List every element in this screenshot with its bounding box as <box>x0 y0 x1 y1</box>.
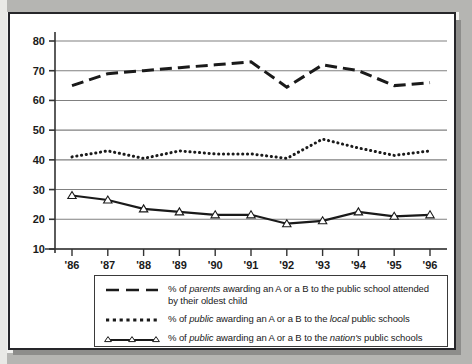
x-axis <box>45 249 447 256</box>
series-line-1 <box>72 139 430 158</box>
legend-local-b: awarding an A or a B to the <box>213 313 329 324</box>
x-tick-label: '95 <box>387 259 402 271</box>
legend-local-em2: local <box>330 313 349 324</box>
panel-shadow-bottom <box>13 350 461 355</box>
chart-legend: % of parents awarding an A or a B to the… <box>94 275 448 347</box>
legend-item-local: % of public awarding an A or a B to the … <box>95 307 447 327</box>
x-tick-label: '87 <box>100 259 115 271</box>
legend-nation-c: public schools <box>362 332 423 343</box>
y-tick-label: 30 <box>33 184 45 196</box>
y-tick-label: 10 <box>33 243 45 255</box>
legend-local-em1: public <box>189 313 213 324</box>
legend-parents-line2: by their oldest child <box>168 295 247 306</box>
x-tick-labels: '86'87'88'89'90'91'92'93'94'95'96 <box>65 259 438 271</box>
data-series-group <box>68 62 434 227</box>
y-tick-label: 50 <box>33 124 45 136</box>
panel-shadow-right <box>456 20 461 354</box>
triangle-line-sample <box>104 332 160 346</box>
x-tick-label: '91 <box>244 259 259 271</box>
x-tick-label: '89 <box>172 259 187 271</box>
legend-nation-b: awarding an A or a B to the <box>213 332 329 343</box>
series-line-0 <box>72 62 430 87</box>
chart-panel: 8070605040302010 '86'87'88'89'90'91'92'9… <box>8 12 456 350</box>
legend-parents-a: % of <box>168 283 189 294</box>
y-axis <box>49 32 55 253</box>
y-tick-label: 60 <box>33 94 45 106</box>
legend-nation-em2: nation's <box>330 332 362 343</box>
y-tick-labels: 8070605040302010 <box>33 35 45 255</box>
screenshot-root: 8070605040302010 '86'87'88'89'90'91'92'9… <box>0 0 472 364</box>
legend-local-c: public schools <box>349 313 410 324</box>
x-tick-label: '94 <box>351 259 367 271</box>
dotted-line-sample <box>104 313 160 327</box>
y-tick-label: 20 <box>33 213 45 225</box>
legend-label-nation: % of public awarding an A or a B to the … <box>168 332 422 344</box>
x-tick-label: '93 <box>315 259 330 271</box>
y-tick-label: 40 <box>33 154 45 166</box>
legend-nation-em1: public <box>189 332 213 343</box>
x-tick-label: '88 <box>136 259 151 271</box>
legend-item-nation: % of public awarding an A or a B to the … <box>95 327 447 346</box>
page-border-top <box>0 0 472 12</box>
legend-local-a: % of <box>168 313 189 324</box>
legend-label-parents: % of parents awarding an A or a B to the… <box>168 283 429 307</box>
x-tick-label: '86 <box>65 259 80 271</box>
page-border-left <box>0 0 7 364</box>
legend-item-parents: % of parents awarding an A or a B to the… <box>95 276 447 307</box>
y-tick-label: 80 <box>33 35 45 47</box>
y-tick-label: 70 <box>33 65 45 77</box>
x-tick-label: '90 <box>208 259 223 271</box>
legend-label-local: % of public awarding an A or a B to the … <box>168 313 410 325</box>
legend-parents-b: awarding an A or a B to the public schoo… <box>220 283 429 294</box>
x-tick-label: '92 <box>279 259 294 271</box>
legend-nation-a: % of <box>168 332 189 343</box>
x-tick-label: '96 <box>423 259 438 271</box>
dashed-line-sample <box>104 283 160 297</box>
legend-parents-em: parents <box>189 283 220 294</box>
